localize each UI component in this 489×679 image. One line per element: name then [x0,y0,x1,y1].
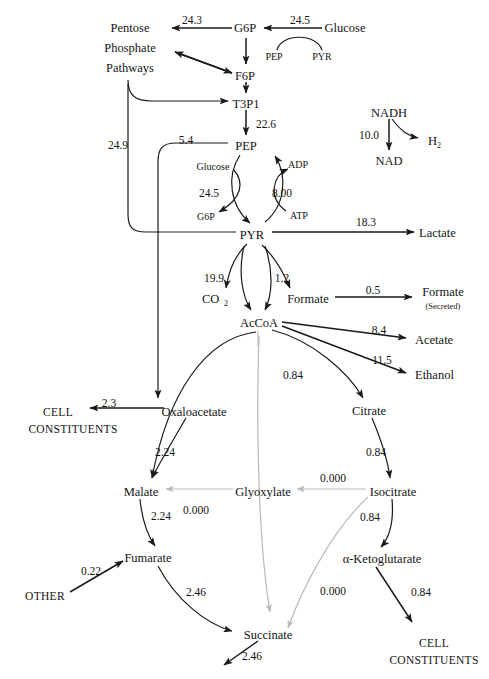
node-f6p: F6P [235,69,255,83]
node-g6p-pts: G6P [197,211,215,222]
flux-malate-to-fumarate: 2.24 [151,510,171,522]
edge-nadh-to-h2 [392,119,418,138]
edge-accoa-to-succinate-faint [258,336,270,612]
node-pentose-line2: Phosphate [104,41,156,55]
edge-pyr-to-accoa-b [265,246,271,310]
flux-fumarate-to-succinate: 2.46 [186,586,206,598]
edge-pyr-recycle-24-9 [128,84,236,232]
flux-pyr-recycle: 24.9 [108,139,128,151]
flux-glyoxylate-to-malate: 0.000 [183,504,209,516]
node-pentose-line3: Pathways [106,61,154,75]
cell-constituents-right-line2: CONSTITUENTS [389,654,478,666]
cell-constituents-left-line1: CELL [43,406,73,418]
edge-malate-to-fumarate [140,499,155,546]
node-citrate: Citrate [352,404,386,418]
flux-akg-to-succinate: 0.000 [320,585,346,597]
flux-pyr-to-formate: 1.2 [275,272,290,284]
node-acetate: Acetate [415,333,454,347]
node-accoa: AcCoA [240,316,278,330]
node-pep-small: PEP [265,51,283,62]
flux-oxaloacetate-to-malate: 2.24 [155,446,175,458]
node-nad: NAD [375,154,402,168]
node-co2: CO [202,292,219,306]
edge-pyr-to-accoa-a [241,246,251,310]
edge-pep-to-oxaloacetate [158,143,228,398]
flux-glucose-to-g6p: 24.5 [290,14,310,26]
edge-accoa-to-acetate [282,322,406,338]
cell-constituents-right-line1: CELL [419,637,449,649]
flux-citrate-to-isocitrate: 0.84 [366,446,386,458]
node-formate: Formate [287,292,329,306]
flux-isocitrate-to-glyoxylate: 0.000 [320,472,346,484]
edge-pts-arc-top [277,37,322,50]
edge-pep-to-pyr-pts [232,155,250,223]
metabolic-flux-diagram: Pentose Phosphate Pathways G6P Glucose P… [0,0,489,679]
flux-nadh-to-nad: 10.0 [359,129,379,141]
node-pyr: PYR [240,228,265,242]
flux-g6p-to-pentose: 24.3 [182,14,202,26]
edge-pentose-to-t3p1 [128,80,228,101]
flux-akg-to-cell: 0.84 [411,586,431,598]
node-isocitrate: Isocitrate [370,485,417,499]
edge-isocitrate-to-akg [381,499,392,547]
node-pentose-line1: Pentose [111,21,150,35]
node-ethanol: Ethanol [415,368,454,382]
edge-fumarate-to-succinate [158,566,232,631]
node-glucose-top: Glucose [325,21,366,35]
edge-pentose-to-f6p [175,52,232,73]
flux-accoa-to-ethanol: 11.5 [372,354,392,366]
h2-subscript: 2 [437,141,441,150]
cell-constituents-left-line2: CONSTITUENTS [28,423,117,435]
node-lactate: Lactate [419,226,456,240]
node-pyr-small: PYR [312,51,332,62]
flux-oxaloacetate-to-cell: 2.3 [102,397,117,409]
flux-other-to-fumarate: 0.22 [81,565,101,577]
flux-succinate-out: 2.46 [242,650,262,662]
flux-isocitrate-to-akg: 0.84 [360,511,380,523]
node-other: OTHER [25,590,65,602]
node-glyoxylate: Glyoxylate [235,485,291,499]
co2-subscript: 2 [224,299,228,308]
node-oxaloacetate: Oxaloacetate [161,405,227,419]
node-nadh: NADH [371,106,407,120]
flux-formate-secreted: 0.5 [366,284,381,296]
flux-pep-to-oxaloacetate: 5.4 [179,134,194,146]
node-pep: PEP [235,139,257,153]
node-formate-secreted-line2: (Secreted) [426,301,461,311]
node-g6p-top: G6P [234,21,256,35]
node-adp: ADP [288,159,308,170]
node-formate-secreted-line1: Formate [422,285,464,299]
node-fumarate: Fumarate [124,551,172,565]
flux-pyr-to-lactate: 18.3 [356,216,376,228]
node-malate: Malate [124,485,159,499]
node-alpha-ketoglutarate: α-Ketoglutarate [343,552,422,566]
edge-pyr-to-co2 [226,244,247,288]
node-t3p1: T3P1 [232,97,259,111]
flux-adp-atp: 8.00 [272,187,292,199]
flux-t3p1-to-pep: 22.6 [256,118,276,130]
flux-pyr-to-co2: 19.9 [204,272,224,284]
pathway-svg: Pentose Phosphate Pathways G6P Glucose P… [0,0,489,679]
node-atp: ATP [290,210,308,221]
node-succinate: Succinate [244,628,293,642]
node-glucose-pts: Glucose [197,161,230,172]
flux-accoa-to-citrate: 0.84 [283,369,303,381]
flux-accoa-to-acetate: 8.4 [372,324,387,336]
node-h2: H [428,134,437,148]
edge-akg-to-cell [376,567,412,622]
flux-glucose-pts: 24.5 [199,187,219,199]
